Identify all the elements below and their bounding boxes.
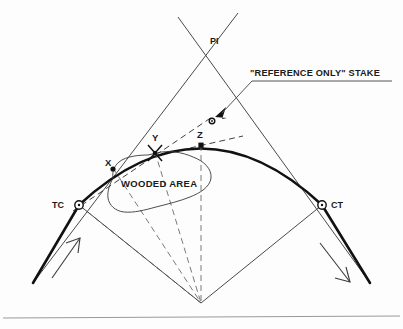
radius-lines: [79, 145, 201, 303]
reference-stake-leader-line: [222, 81, 252, 113]
curve-forward-extension: [322, 205, 370, 283]
ct-center-dot: [321, 204, 323, 206]
tc-center-dot: [78, 204, 80, 206]
leg-radius-to-tc: [79, 205, 201, 303]
point-z-label: Z: [197, 129, 203, 140]
point-y-marker: [153, 151, 157, 155]
ct-label: CT: [331, 200, 343, 210]
wooded-area-group: WOODED AREA: [108, 152, 211, 213]
curve-back-extension: [33, 205, 79, 283]
pi-label: PI: [210, 36, 219, 46]
curve-arc: [79, 149, 322, 206]
point-x-label: X: [105, 157, 112, 168]
diagram-canvas: WOODED AREA TC CT X Y: [0, 0, 403, 329]
reference-stake-arrowhead: [215, 107, 227, 119]
ct-marker-group: CT: [318, 200, 344, 210]
point-z-marker: [198, 143, 203, 148]
tc-label: TC: [52, 200, 64, 210]
point-y-label: Y: [152, 132, 159, 143]
leg-radius-to-ct: [201, 205, 322, 303]
radius-solid-legs: [79, 205, 322, 303]
reference-stake-center-dot: [211, 120, 213, 122]
radius-line-y: [155, 152, 201, 303]
reference-stake-group: "REFERENCE ONLY" STAKE: [209, 68, 392, 124]
footer-divider-rule: [3, 316, 400, 318]
point-x-group: X: [105, 157, 116, 172]
tc-marker-group: TC: [52, 200, 83, 210]
wooded-area-label: WOODED AREA: [121, 178, 197, 189]
point-z-group: Z: [197, 129, 204, 148]
curve-staking-diagram: WOODED AREA TC CT X Y: [0, 0, 403, 329]
reference-stake-label: "REFERENCE ONLY" STAKE: [250, 68, 380, 78]
